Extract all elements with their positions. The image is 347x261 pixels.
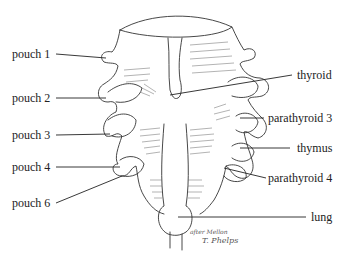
label-pouch-4: pouch 4 xyxy=(12,161,50,173)
anatomy-illustration xyxy=(0,0,347,261)
label-thymus: thymus xyxy=(297,142,332,154)
pharynx-rim xyxy=(120,16,232,37)
leader-lines xyxy=(56,54,306,217)
signature-line-1: after Mellon xyxy=(190,228,228,235)
leader-pouch-1 xyxy=(56,54,106,58)
label-pouch-1: pouch 1 xyxy=(12,48,50,60)
signature-line-2: T. Phelps xyxy=(202,236,238,245)
label-parathyroid-4: parathyroid 4 xyxy=(268,172,332,184)
leader-thyroid xyxy=(170,75,292,95)
thyroid-diverticulum xyxy=(168,38,182,99)
leader-parathyroid-4 xyxy=(224,168,266,178)
label-parathyroid-3: parathyroid 3 xyxy=(268,112,332,124)
label-pouch-6: pouch 6 xyxy=(12,197,50,209)
label-pouch-3: pouch 3 xyxy=(12,129,50,141)
trachea xyxy=(158,124,192,235)
leader-pouch-6 xyxy=(56,176,122,203)
hatching xyxy=(124,42,236,198)
label-pouch-2: pouch 2 xyxy=(12,92,50,104)
label-lung: lung xyxy=(311,211,332,223)
pharynx-body xyxy=(98,30,164,214)
pharyngeal-diagram: pouch 1 pouch 2 pouch 3 pouch 4 pouch 6 … xyxy=(0,0,347,261)
pharynx-body-right xyxy=(200,27,269,214)
label-thyroid: thyroid xyxy=(297,69,332,81)
leader-pouch-3 xyxy=(56,134,110,135)
